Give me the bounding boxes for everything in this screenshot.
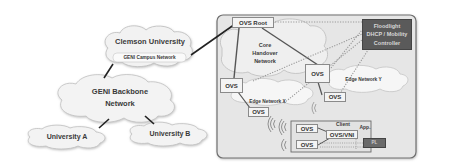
ovs-core-left-node: OVS [220, 78, 243, 93]
controller-label-line2: DHCP / Mobility [367, 30, 408, 38]
client-ovs-top-node: OVS [296, 124, 318, 133]
ovs-root-node: OVS Root [232, 17, 274, 28]
ovs-edge-x-node: OVS [248, 107, 269, 117]
clemson-university-label: Clemson University [112, 38, 188, 47]
client-label: Client [330, 122, 356, 128]
core-label-line1: Core [245, 42, 285, 48]
ovs-core-right-node: OVS [305, 64, 330, 83]
ovs-edge-y-node: OVS [324, 92, 346, 102]
controller-label-line3: Controller [374, 39, 400, 47]
edge-network-y-label: Edge Network Y [336, 77, 391, 83]
pl-node: PL [363, 138, 386, 148]
geni-backbone-label-line2: Network [80, 100, 160, 109]
university-a-label: University A [36, 133, 98, 141]
client-ovs-bottom-node: OVS [296, 140, 318, 149]
floodlight-controller: Floodlight DHCP / Mobility Controller [362, 19, 412, 50]
geni-campus-network-label: GENI Campus Network [113, 55, 186, 61]
university-b-label: University B [136, 130, 204, 138]
core-label-line3: Network [245, 58, 285, 64]
client-ovs-vni-node: OVS/VNI [326, 130, 358, 139]
app-label: App. [356, 125, 374, 131]
geni-backbone-label-line1: GENI Backbone [80, 88, 160, 97]
controller-label-line1: Floodlight [374, 22, 401, 30]
core-label-line2: Handover [245, 50, 285, 56]
edge-network-x-label: Edge Network X [240, 99, 295, 105]
